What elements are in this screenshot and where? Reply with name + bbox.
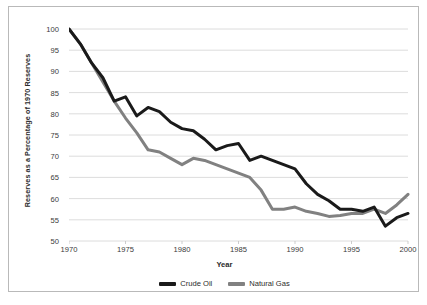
x-axis-tick-label: 1985 [230, 245, 247, 254]
plot-area [69, 19, 412, 264]
line-chart-svg [69, 19, 412, 264]
legend-item: Crude Oil [159, 279, 212, 288]
y-axis-tick-label: 65 [51, 173, 59, 182]
legend-swatch-icon [159, 282, 176, 286]
x-axis-title: Year [37, 260, 412, 269]
x-axis-tick-label: 1990 [287, 245, 304, 254]
x-axis-tick-label: 1995 [343, 245, 360, 254]
y-axis-tick-label: 60 [51, 194, 59, 203]
y-axis-tick-label: 100 [46, 25, 59, 34]
y-axis-tick-label: 85 [51, 88, 59, 97]
y-axis-tick-label: 90 [51, 67, 59, 76]
y-axis-tick-label: 75 [51, 131, 59, 140]
chart-frame: Reserves as a Percentage of 1970 Reserve… [8, 6, 419, 292]
y-axis-tick-label: 80 [51, 109, 59, 118]
x-axis-tick-label: 2000 [400, 245, 417, 254]
y-axis-title: Reserves as a Percentage of 1970 Reserve… [19, 23, 37, 238]
y-axis-tick-label: 55 [51, 215, 59, 224]
y-axis-tick-label: 95 [51, 46, 59, 55]
legend-label: Crude Oil [180, 279, 212, 288]
x-axis-tick-label: 1975 [117, 245, 134, 254]
series-line-crude-oil [69, 29, 408, 226]
legend-label: Natural Gas [249, 279, 290, 288]
x-axis-tick-label: 1970 [61, 245, 78, 254]
chart-legend: Crude OilNatural Gas [37, 279, 412, 288]
series-line-natural-gas [69, 29, 408, 216]
legend-swatch-icon [228, 282, 245, 286]
y-axis-title-text: Reserves as a Percentage of 1970 Reserve… [24, 54, 33, 208]
plot-area-wrapper: 50556065707580859095100 1970197519801985… [37, 19, 412, 264]
legend-item: Natural Gas [228, 279, 290, 288]
y-axis-tick-label: 70 [51, 152, 59, 161]
x-axis-tick-label: 1980 [174, 245, 191, 254]
x-axis-tick-labels: 1970197519801985199019952000 [69, 239, 412, 259]
y-axis-tick-label: 50 [51, 237, 59, 246]
y-axis-tick-labels: 50556065707580859095100 [37, 19, 63, 264]
chart-figure: Reserves as a Percentage of 1970 Reserve… [0, 0, 427, 305]
